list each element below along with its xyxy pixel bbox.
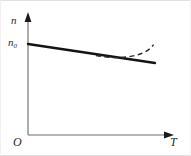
y-axis-tick-label-n0: n0	[8, 37, 17, 48]
x-axis-label: T	[170, 136, 177, 148]
origin-label: O	[13, 136, 22, 148]
figure-container: n n0 O T	[0, 0, 191, 156]
y-axis	[25, 12, 32, 135]
n0-base: n	[8, 36, 14, 48]
plot-canvas	[0, 0, 191, 156]
y-axis-arrowhead	[25, 12, 32, 22]
x-axis	[28, 132, 174, 139]
y-axis-label: n	[11, 15, 17, 26]
n0-subscript: 0	[14, 42, 18, 50]
solid-declining-line	[28, 44, 155, 63]
